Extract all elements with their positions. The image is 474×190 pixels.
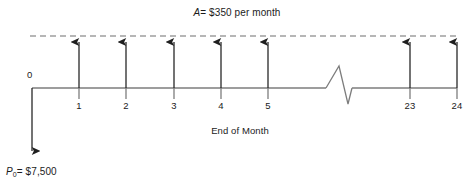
principal-value: = $7,500 — [17, 166, 57, 177]
tick-label-month-3: 3 — [171, 101, 176, 111]
principal-subscript: 0 — [13, 171, 17, 178]
axis-tick-group — [79, 88, 457, 99]
tick-label-month-24: 24 — [452, 101, 463, 111]
cash-flow-canvas — [0, 0, 474, 190]
tick-label-month-4: 4 — [218, 101, 223, 111]
tick-label-month-1: 1 — [76, 101, 81, 111]
annuity-caption: A= $350 per month — [193, 8, 280, 18]
axis-caption: End of Month — [211, 126, 269, 136]
axis-break-zigzag-icon — [326, 66, 352, 104]
origin-label: 0 — [27, 70, 32, 80]
annuity-symbol: A — [193, 7, 200, 18]
tick-label-month-2: 2 — [123, 101, 128, 111]
tick-label-month-23: 23 — [405, 101, 416, 111]
principal-caption: P0= $7,500 — [6, 167, 57, 177]
cash-flow-diagram: A= $350 per month 0 1 2 3 4 5 23 24 End … — [0, 0, 474, 190]
annuity-value: = $350 per month — [200, 7, 280, 18]
inflow-arrow-group — [79, 42, 457, 88]
principal-symbol: P — [6, 166, 13, 177]
tick-label-month-5: 5 — [265, 101, 270, 111]
